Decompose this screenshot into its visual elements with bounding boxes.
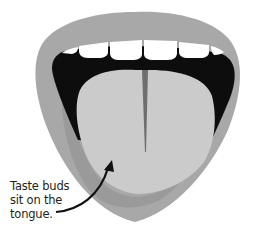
tooth — [144, 40, 177, 60]
annotation-label: Taste buds sit on the tongue. — [10, 179, 90, 221]
annotation-line-3: tongue. — [10, 207, 90, 221]
annotation-line-1: Taste buds — [10, 179, 90, 193]
tooth — [110, 40, 142, 60]
annotation-line-2: sit on the — [10, 193, 90, 207]
